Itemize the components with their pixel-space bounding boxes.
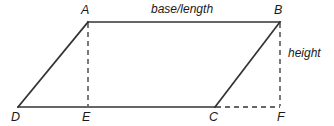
right-side-CB (215, 22, 280, 107)
vertex-label-d: D (11, 111, 20, 124)
vertex-label-b: B (274, 4, 282, 17)
geometry-canvas (0, 0, 334, 126)
base-length-label: base/length (151, 3, 213, 15)
vertex-label-c: C (209, 111, 218, 124)
vertex-label-f: F (277, 111, 285, 124)
vertex-label-a: A (81, 4, 89, 17)
parallelogram-diagram: A B C D E F base/length height (0, 0, 334, 126)
vertex-label-e: E (82, 111, 90, 124)
left-side-DA (18, 22, 88, 107)
height-label: height (288, 47, 321, 59)
